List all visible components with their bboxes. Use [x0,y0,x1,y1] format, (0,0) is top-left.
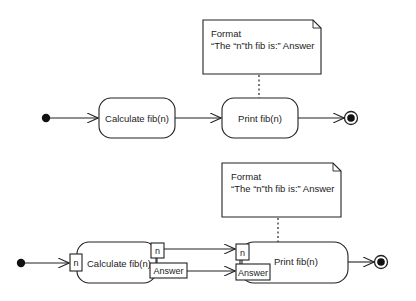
action-label: Print fib(n) [238,113,282,124]
note: Format “The “n”th fib is:” Answer [222,163,341,217]
action-calculate: Calculate fib(n) [99,98,175,138]
note-text: “The “n”th fib is:” Answer [231,183,334,194]
note-title: Format [211,28,241,39]
note-title: Format [231,171,261,182]
pin-label: n [155,246,160,256]
diagram-with-pins: Format “The “n”th fib is:” Answer Calcul… [17,163,388,283]
activity-diagrams: Format “The “n”th fib is:” Answer Calcul… [0,0,416,301]
initial-node [17,259,25,267]
final-node [375,256,388,269]
action-print: Print fib(n) n Answer [236,242,348,283]
initial-node [42,114,50,122]
action-calculate: Calculate fib(n) n n Answer [70,242,187,283]
pin-label: n [240,248,245,258]
final-node [345,112,358,125]
pin-label: Answer [238,268,268,278]
diagram-simple: Format “The “n”th fib is:” Answer Calcul… [42,20,358,138]
action-label: Calculate fib(n) [87,258,151,269]
note-text: “The “n”th fib is:” Answer [211,40,314,51]
action-label: Calculate fib(n) [105,113,169,124]
action-print: Print fib(n) [222,98,298,138]
pin-label: Answer [153,266,183,276]
pin-label: n [73,258,78,268]
note: Format “The “n”th fib is:” Answer [203,20,321,74]
action-label: Print fib(n) [274,256,318,267]
